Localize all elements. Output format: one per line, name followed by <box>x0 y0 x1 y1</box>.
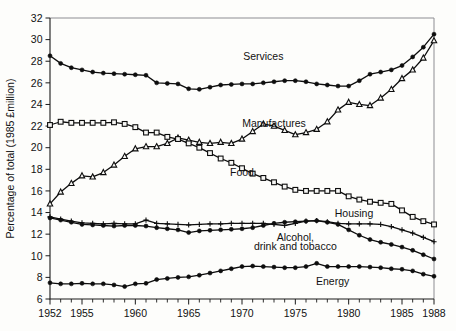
data-point-food-1974 <box>282 184 287 189</box>
data-point-services-1976 <box>304 80 308 84</box>
data-point-food-1972 <box>261 176 266 181</box>
data-point-services-1977 <box>315 82 319 86</box>
data-point-alcohol-drink-and-tobacco-1963 <box>165 227 169 231</box>
data-point-services-1969 <box>229 82 233 86</box>
x-tick-label-1975: 1975 <box>284 307 308 319</box>
data-point-services-1980 <box>347 84 351 88</box>
series-label-alcohol-line2: drink and tobacco <box>254 240 337 252</box>
series-label-services: Services <box>243 50 283 62</box>
data-point-food-1988 <box>432 222 437 227</box>
data-point-food-1964 <box>176 137 181 142</box>
data-point-food-1976 <box>304 189 309 194</box>
data-point-alcohol-drink-and-tobacco-1974 <box>283 220 287 224</box>
data-point-services-1978 <box>325 83 329 87</box>
data-point-food-1979 <box>336 189 341 194</box>
data-point-food-1987 <box>421 219 426 224</box>
data-point-alcohol-drink-and-tobacco-1961 <box>144 224 148 228</box>
data-point-food-1960 <box>133 125 138 130</box>
data-point-alcohol-drink-and-tobacco-1982 <box>368 238 372 242</box>
data-point-energy-1983 <box>379 266 383 270</box>
data-point-services-1979 <box>336 84 340 88</box>
data-point-food-1954 <box>69 120 74 125</box>
data-point-alcohol-drink-and-tobacco-1977 <box>315 219 319 223</box>
data-point-services-1963 <box>165 81 169 85</box>
data-point-alcohol-drink-and-tobacco-1962 <box>155 226 159 230</box>
data-point-alcohol-drink-and-tobacco-1988 <box>432 257 436 261</box>
data-point-alcohol-drink-and-tobacco-1987 <box>421 253 425 257</box>
data-point-food-1956 <box>90 120 95 125</box>
data-point-energy-1952 <box>48 281 52 285</box>
data-point-services-1962 <box>155 81 159 85</box>
data-point-food-1955 <box>80 120 85 125</box>
data-point-alcohol-drink-and-tobacco-1976 <box>304 219 308 223</box>
chart-figure: 68101214161820222426283032 1952195519601… <box>0 0 456 331</box>
data-point-food-1961 <box>144 130 149 135</box>
data-point-alcohol-drink-and-tobacco-1970 <box>240 227 244 231</box>
data-point-energy-1976 <box>304 265 308 269</box>
data-point-energy-1962 <box>155 278 159 282</box>
data-point-alcohol-drink-and-tobacco-1968 <box>219 228 223 232</box>
data-point-energy-1988 <box>432 274 436 278</box>
data-point-alcohol-drink-and-tobacco-1964 <box>176 228 180 232</box>
data-point-services-1982 <box>368 72 372 76</box>
data-point-alcohol-drink-and-tobacco-1966 <box>197 229 201 233</box>
data-point-services-1955 <box>80 68 84 72</box>
data-point-food-1981 <box>357 197 362 202</box>
data-point-energy-1965 <box>187 275 191 279</box>
y-tick-label-26: 26 <box>31 77 43 89</box>
line-chart-canvas: 68101214161820222426283032 1952195519601… <box>0 0 456 331</box>
data-point-services-1973 <box>272 80 276 84</box>
data-point-services-1958 <box>112 72 116 76</box>
data-point-energy-1970 <box>240 265 244 269</box>
data-point-food-1959 <box>122 122 127 127</box>
data-point-energy-1954 <box>69 282 73 286</box>
data-point-alcohol-drink-and-tobacco-1980 <box>347 228 351 232</box>
data-point-energy-1974 <box>283 266 287 270</box>
y-tick-label-16: 16 <box>31 185 43 197</box>
data-point-energy-1987 <box>421 272 425 276</box>
data-point-alcohol-drink-and-tobacco-1972 <box>261 224 265 228</box>
y-tick-label-20: 20 <box>31 141 43 153</box>
data-point-food-1978 <box>325 189 330 194</box>
data-point-services-1967 <box>208 85 212 89</box>
data-point-energy-1958 <box>112 283 116 287</box>
x-tick-label-1985: 1985 <box>390 307 414 319</box>
y-axis-title: Percentage of total (1985 £million) <box>4 79 16 239</box>
data-point-alcohol-drink-and-tobacco-1975 <box>293 220 297 224</box>
data-point-food-1957 <box>101 120 106 125</box>
data-point-energy-1975 <box>293 266 297 270</box>
data-point-food-1952 <box>48 123 53 128</box>
series-label-manufactures: Manufactures <box>242 117 306 129</box>
data-point-food-1986 <box>410 214 415 219</box>
data-point-food-1980 <box>346 194 351 199</box>
data-point-services-1970 <box>240 82 244 86</box>
data-point-alcohol-drink-and-tobacco-1971 <box>251 226 255 230</box>
data-point-energy-1977 <box>315 261 319 265</box>
x-tick-label-1960: 1960 <box>124 307 148 319</box>
data-point-energy-1964 <box>176 275 180 279</box>
y-tick-label-12: 12 <box>31 228 43 240</box>
data-point-alcohol-drink-and-tobacco-1981 <box>357 233 361 237</box>
data-point-services-1981 <box>357 79 361 83</box>
data-point-energy-1971 <box>251 264 255 268</box>
data-point-food-1966 <box>197 145 202 150</box>
data-point-services-1961 <box>144 73 148 77</box>
data-point-food-1977 <box>314 189 319 194</box>
y-tick-label-14: 14 <box>31 206 43 218</box>
data-point-services-1988 <box>432 32 436 36</box>
data-point-services-1952 <box>48 54 52 58</box>
data-point-services-1960 <box>133 73 137 77</box>
x-tick-label-1965: 1965 <box>177 307 201 319</box>
data-point-energy-1969 <box>229 267 233 271</box>
data-point-energy-1960 <box>133 282 137 286</box>
y-tick-label-24: 24 <box>31 98 43 110</box>
data-point-food-1967 <box>208 151 213 156</box>
data-point-alcohol-drink-and-tobacco-1956 <box>91 223 95 227</box>
data-point-energy-1956 <box>91 282 95 286</box>
data-point-services-1965 <box>187 87 191 91</box>
data-point-energy-1967 <box>208 271 212 275</box>
data-point-food-1969 <box>229 160 234 165</box>
data-point-alcohol-drink-and-tobacco-1984 <box>389 242 393 246</box>
data-point-alcohol-drink-and-tobacco-1959 <box>123 224 127 228</box>
data-point-energy-1985 <box>400 267 404 271</box>
